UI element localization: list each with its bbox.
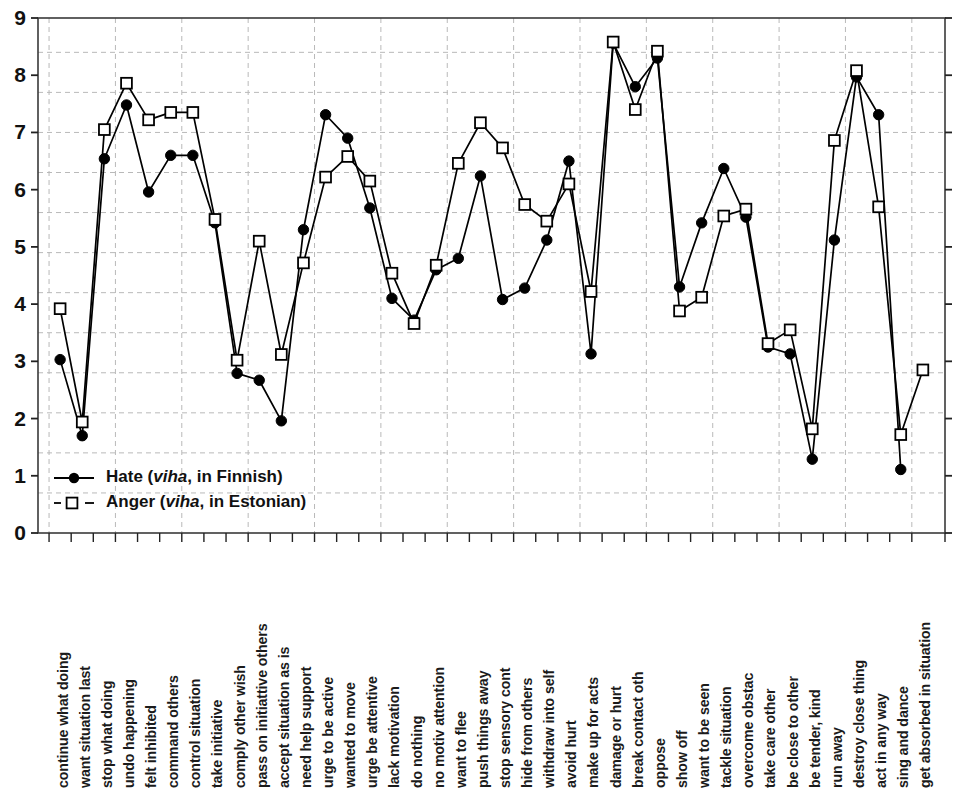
data-series-layer [55,37,929,475]
y-axis-tick-8: 8 [0,64,26,85]
chart-figure: 9876543210 continue what doingwant situa… [0,0,955,802]
y-axis-tick-4: 4 [0,293,26,314]
legend-entry-anger: Anger (viha, in Estonian) [106,492,306,512]
y-axis-tick-7: 7 [0,121,26,142]
y-axis-tick-0: 0 [0,522,26,543]
y-axis-tick-6: 6 [0,179,26,200]
line-chart-plot [0,0,955,802]
legend-markers [54,473,94,509]
y-axis-tick-5: 5 [0,236,26,257]
y-axis-tick-2: 2 [0,408,26,429]
y-axis-tick-3: 3 [0,350,26,371]
y-axis-tick-9: 9 [0,7,26,28]
y-axis-tick-1: 1 [0,465,26,486]
legend-entry-hate: Hate (viha, in Finnish) [106,467,283,487]
